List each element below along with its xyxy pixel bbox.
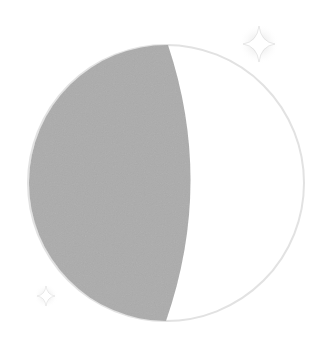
sparkle-small-icon bbox=[34, 284, 58, 308]
moon-illustration bbox=[0, 0, 326, 351]
sparkle-large-icon bbox=[239, 24, 279, 64]
moon-scene: Waxing gibbous moon illustration bbox=[0, 0, 326, 351]
moon-shadow bbox=[29, 45, 191, 321]
